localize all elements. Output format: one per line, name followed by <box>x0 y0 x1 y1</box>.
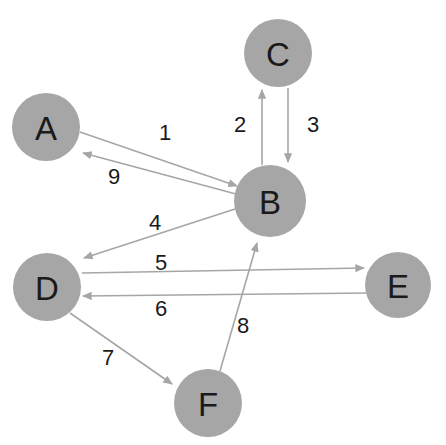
graph-node-d[interactable]: D <box>13 253 81 321</box>
node-label-c: C <box>266 36 290 73</box>
nodes-layer: ABCDEF <box>12 19 431 437</box>
graph-edge-d-e <box>82 268 364 273</box>
edge-label-6: 6 <box>155 296 167 321</box>
edge-label-1: 1 <box>159 120 171 145</box>
node-label-e: E <box>387 268 409 305</box>
edges-layer <box>70 88 368 384</box>
graph-edge-d-f <box>70 313 172 384</box>
node-label-b: B <box>259 184 281 221</box>
edge-label-5: 5 <box>155 250 167 275</box>
edge-label-4: 4 <box>149 210 161 235</box>
graph-edge-f-b <box>220 243 257 371</box>
edge-label-9: 9 <box>108 164 120 189</box>
graph-svg: ABCDEF 123456789 <box>0 0 446 445</box>
graph-diagram-canvas: ABCDEF 123456789 <box>0 0 446 445</box>
graph-node-c[interactable]: C <box>244 19 312 87</box>
graph-node-f[interactable]: F <box>174 369 242 437</box>
node-label-a: A <box>35 110 57 147</box>
node-label-f: F <box>198 386 218 423</box>
graph-edge-e-d <box>83 293 368 296</box>
edge-label-3: 3 <box>307 112 319 137</box>
node-label-d: D <box>35 270 59 307</box>
graph-node-a[interactable]: A <box>12 93 80 161</box>
edge-label-2: 2 <box>234 112 246 137</box>
edge-label-7: 7 <box>102 345 114 370</box>
graph-node-e[interactable]: E <box>365 252 431 318</box>
edge-label-8: 8 <box>237 313 249 338</box>
graph-node-b[interactable]: B <box>234 165 306 237</box>
